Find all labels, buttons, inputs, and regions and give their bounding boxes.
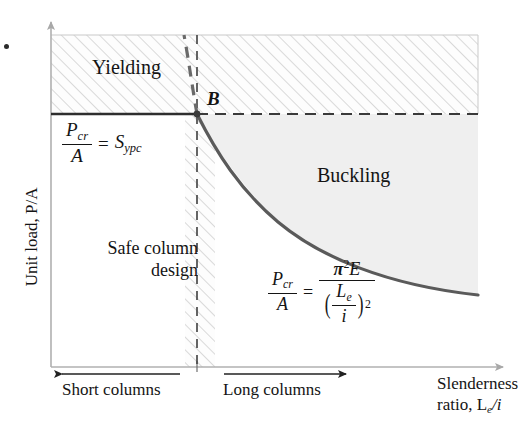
symbol-l: L bbox=[336, 281, 346, 301]
page-speck bbox=[4, 44, 9, 49]
left-paren: ( bbox=[325, 294, 331, 314]
fraction-denominator: i bbox=[338, 307, 351, 327]
fraction-numerator: Pcr bbox=[62, 120, 92, 143]
range-label-short-columns: Short columns bbox=[62, 381, 161, 399]
fraction-pcr-over-a-euler: Pcr A bbox=[268, 270, 297, 314]
equation-euler-buckling: Pcr A = π2E ( Le i ) 2 bbox=[268, 258, 375, 327]
subscript-e: e bbox=[346, 291, 351, 304]
fraction-le-over-i: Le i bbox=[332, 282, 355, 326]
fraction-denominator: ( Le i ) 2 bbox=[319, 282, 375, 326]
fraction-numerator: π2E bbox=[330, 258, 365, 279]
x-axis-title-line1: Slenderness bbox=[437, 374, 518, 393]
x-axis-title-line2: ratio, L bbox=[437, 395, 487, 414]
fraction-numerator: Pcr bbox=[268, 270, 297, 291]
fraction-denominator: A bbox=[273, 295, 292, 315]
equation-yield-limit: Pcr A = Sypc bbox=[62, 120, 142, 167]
point-b-label: B bbox=[207, 89, 220, 109]
x-axis-title: Slenderness ratio, Le/i bbox=[437, 374, 517, 417]
symbol-s-ypc: Sypc bbox=[115, 131, 142, 156]
fraction-denominator: A bbox=[67, 146, 87, 167]
fraction-euler-rhs: π2E ( Le i ) 2 bbox=[319, 258, 375, 327]
fraction-numerator: Le bbox=[332, 282, 355, 303]
symbol-p: P bbox=[66, 119, 78, 140]
subscript-cr: cr bbox=[283, 278, 293, 291]
fraction-bar bbox=[319, 280, 375, 281]
y-axis-title: Unit load, P/A bbox=[23, 177, 41, 297]
equals-sign: = bbox=[297, 282, 319, 303]
symbol-pi: π bbox=[334, 259, 344, 279]
equals-sign: = bbox=[92, 133, 115, 155]
region-label-safe-column-design: Safe column design bbox=[106, 238, 198, 282]
right-paren: ) bbox=[357, 294, 363, 314]
region-label-buckling: Buckling bbox=[317, 165, 390, 186]
fraction-pcr-over-a: Pcr A bbox=[62, 120, 92, 167]
symbol-p: P bbox=[272, 269, 283, 289]
x-axis-title-line2b: /i bbox=[492, 395, 501, 414]
subscript-ypc: ypc bbox=[124, 141, 141, 156]
exponent-2: 2 bbox=[365, 298, 371, 311]
range-label-long-columns: Long columns bbox=[223, 381, 321, 399]
point-b-marker bbox=[194, 111, 201, 118]
region-label-yielding: Yielding bbox=[92, 57, 161, 78]
symbol-s: S bbox=[115, 131, 125, 152]
subscript-cr: cr bbox=[78, 130, 88, 144]
symbol-e: E bbox=[349, 259, 360, 279]
